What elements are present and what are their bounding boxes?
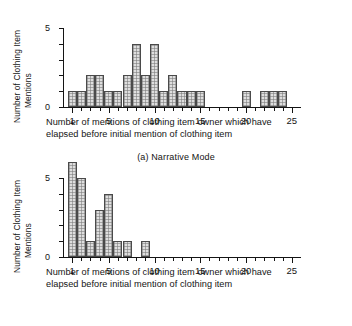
x-tick: [90, 258, 91, 261]
bar: [132, 44, 141, 107]
bar-group-a: [63, 28, 301, 107]
x-tick: [228, 258, 229, 261]
x-tick: [191, 258, 192, 261]
bar: [196, 91, 205, 107]
x-axis-caption-b-line1: Number of mentions of clothing item owne…: [46, 267, 272, 277]
x-tick: [100, 258, 101, 261]
x-tick: [246, 108, 247, 113]
x-tick: [145, 108, 146, 111]
x-tick: [209, 108, 210, 111]
bar: [187, 91, 196, 107]
x-tick: [200, 258, 201, 263]
x-tick: [72, 258, 73, 263]
bar: [123, 241, 132, 257]
bar: [242, 91, 251, 107]
x-tick: [219, 258, 220, 261]
x-tick: [246, 258, 247, 263]
bar-group-b: [63, 178, 301, 257]
x-tick: [136, 108, 137, 111]
x-tick: [90, 108, 91, 111]
y-tick-label: 0: [45, 252, 50, 262]
x-tick: [127, 108, 128, 111]
x-tick: [292, 258, 293, 263]
x-tick: [118, 258, 119, 261]
y-tick: [59, 178, 63, 179]
x-tick: [164, 108, 165, 111]
y-tick: [59, 75, 63, 76]
x-tick: [118, 108, 119, 111]
x-tick: [155, 108, 156, 113]
y-tick: [59, 210, 63, 211]
y-tick: [59, 194, 63, 195]
x-axis-caption-a-line2: elapsed before initial mention of clothi…: [46, 129, 232, 139]
panel-descriptive-mode: Number of Clothing Item Mentions 05 1510…: [0, 150, 352, 313]
x-tick: [209, 258, 210, 261]
x-tick: [173, 108, 174, 111]
y-tick: [59, 60, 63, 61]
y-tick: [59, 28, 63, 29]
y-tick: [59, 107, 63, 108]
x-tick: [155, 258, 156, 263]
y-tick-label: 0: [45, 102, 50, 112]
bar: [278, 91, 287, 107]
y-tick: [59, 91, 63, 92]
bar: [141, 241, 150, 257]
x-tick: [81, 258, 82, 261]
x-tick: [72, 108, 73, 113]
x-tick: [237, 258, 238, 261]
bar: [95, 210, 104, 257]
x-tick: [164, 258, 165, 261]
x-axis-caption-b-line2: elapsed before initial mention of clothi…: [46, 279, 232, 289]
x-tick: [255, 258, 256, 261]
bar: [168, 75, 177, 107]
plot-area-b: 05 1510152025: [63, 178, 288, 258]
x-tick: [136, 258, 137, 261]
x-tick: [109, 258, 110, 263]
x-tick: [274, 258, 275, 261]
y-tick-label: 5: [45, 23, 50, 33]
bar: [159, 91, 168, 107]
x-axis-caption-a: Number of mentions of clothing item owne…: [46, 117, 336, 140]
plot-area-a: 05 1510152025: [63, 28, 288, 108]
x-tick: [292, 108, 293, 113]
bar: [68, 162, 77, 257]
bar: [113, 241, 122, 257]
x-tick: [81, 108, 82, 111]
x-tick: [264, 258, 265, 261]
bar: [141, 75, 150, 107]
figure-histograms: Number of Clothing Item Mentions 05 1510…: [0, 0, 352, 326]
x-tick: [283, 108, 284, 111]
x-tick: [127, 258, 128, 261]
x-tick: [264, 108, 265, 111]
bar: [123, 75, 132, 107]
x-tick: [274, 108, 275, 111]
bar: [260, 91, 269, 107]
x-tick: [182, 258, 183, 261]
x-tick: [200, 108, 201, 113]
bar: [113, 91, 122, 107]
y-axis-title-line2-b: Mentions: [23, 223, 34, 258]
x-axis-caption-b: Number of mentions of clothing item owne…: [46, 267, 336, 290]
x-tick: [219, 108, 220, 111]
x-tick: [182, 108, 183, 111]
x-tick: [228, 108, 229, 111]
x-tick: [283, 258, 284, 261]
bar: [150, 44, 159, 107]
bar: [86, 75, 95, 107]
y-axis-title-line2: Mentions: [23, 73, 34, 108]
x-tick: [173, 258, 174, 261]
bar: [77, 178, 86, 257]
y-tick: [59, 241, 63, 242]
panel-narrative-mode: Number of Clothing Item Mentions 05 1510…: [0, 0, 352, 163]
bar: [104, 91, 113, 107]
bar: [86, 241, 95, 257]
y-tick: [59, 225, 63, 226]
bar: [269, 91, 278, 107]
bar: [104, 194, 113, 257]
y-tick: [59, 44, 63, 45]
y-axis-title-line1: Number of Clothing Item: [12, 30, 23, 123]
x-axis-caption-a-line1: Number of mentions of clothing item owne…: [46, 117, 272, 127]
x-tick: [145, 258, 146, 261]
y-tick: [59, 257, 63, 258]
bar: [77, 91, 86, 107]
